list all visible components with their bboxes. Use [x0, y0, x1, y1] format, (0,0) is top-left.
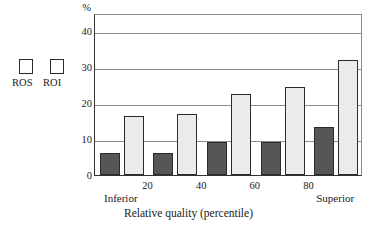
chart-figure: ROS ROI % 010203040 Inferior Superior Re…: [0, 0, 377, 229]
x-axis-title: Relative quality (percentile): [0, 206, 377, 220]
x-tick-label-20: 20: [142, 180, 153, 192]
x-axis-label-superior: Superior: [316, 192, 354, 205]
x-axis: Inferior Superior Relative quality (perc…: [0, 0, 377, 229]
x-tick-label-60: 60: [250, 180, 261, 192]
x-tick-label-80: 80: [303, 180, 314, 192]
x-tick-label-40: 40: [196, 180, 207, 192]
x-axis-label-inferior: Inferior: [104, 192, 138, 205]
